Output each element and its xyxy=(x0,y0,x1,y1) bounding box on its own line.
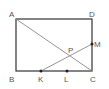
label-b: B xyxy=(9,75,14,84)
label-l: L xyxy=(64,75,69,84)
label-k: K xyxy=(38,75,44,84)
label-p: P xyxy=(68,46,73,55)
diagonal-ac xyxy=(16,19,92,71)
segment-km xyxy=(41,44,92,71)
label-c: C xyxy=(90,75,96,84)
point-k-marker xyxy=(40,70,43,73)
label-a: A xyxy=(9,10,15,19)
geometry-diagram: A D B C K L M P xyxy=(0,0,109,89)
point-l-marker xyxy=(66,70,69,73)
label-d: D xyxy=(89,10,95,19)
label-m: M xyxy=(94,40,101,49)
